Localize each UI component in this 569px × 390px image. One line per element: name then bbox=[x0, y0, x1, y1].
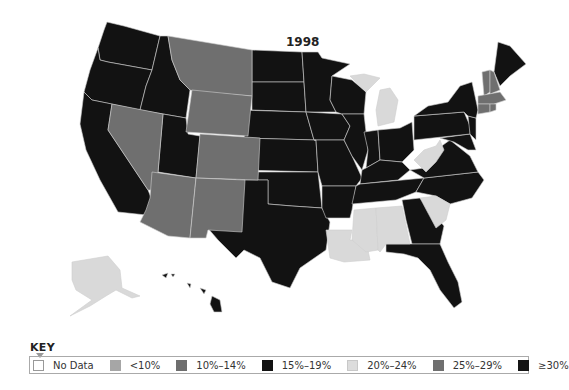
state-ri bbox=[490, 104, 496, 112]
state-sd bbox=[252, 82, 306, 112]
state-nm bbox=[190, 178, 245, 238]
state-hi bbox=[162, 273, 222, 312]
legend-label: 25%–29% bbox=[453, 360, 502, 371]
legend-item-15-19: 15%–19% bbox=[262, 360, 331, 371]
state-fl bbox=[386, 244, 462, 308]
state-oh bbox=[378, 122, 414, 162]
swatch-20-24 bbox=[347, 360, 358, 371]
legend-label: 20%–24% bbox=[367, 360, 416, 371]
legend-label: <10% bbox=[130, 360, 161, 371]
legend-item-gte30: ≥30% bbox=[518, 360, 569, 371]
swatch-15-19 bbox=[262, 360, 273, 371]
state-nd bbox=[252, 50, 304, 82]
legend-label: 15%–19% bbox=[282, 360, 331, 371]
swatch-gte30 bbox=[518, 360, 529, 371]
state-ak bbox=[70, 256, 140, 316]
legend: No Data <10% 10%–14% 15%–19% 20%–24% 25%… bbox=[29, 356, 529, 374]
state-vt bbox=[482, 70, 490, 96]
swatch-10-14 bbox=[176, 360, 187, 371]
map-title: 1998 bbox=[286, 35, 319, 49]
swatch-25-29 bbox=[433, 360, 444, 371]
state-me bbox=[494, 42, 526, 86]
legend-label: No Data bbox=[53, 360, 94, 371]
state-co bbox=[196, 134, 260, 180]
legend-item-lt10: <10% bbox=[110, 360, 161, 371]
legend-item-no-data: No Data bbox=[33, 360, 94, 371]
legend-item-25-29: 25%–29% bbox=[433, 360, 502, 371]
state-ct bbox=[478, 104, 490, 114]
swatch-lt10 bbox=[110, 360, 121, 371]
state-ny bbox=[414, 82, 478, 118]
state-ma bbox=[478, 92, 506, 104]
state-ar bbox=[322, 186, 356, 218]
legend-label: 10%–14% bbox=[196, 360, 245, 371]
state-wy bbox=[186, 90, 252, 136]
legend-label: ≥30% bbox=[538, 360, 569, 371]
legend-item-20-24: 20%–24% bbox=[347, 360, 416, 371]
legend-item-10-14: 10%–14% bbox=[176, 360, 245, 371]
swatch-no-data bbox=[33, 360, 44, 371]
